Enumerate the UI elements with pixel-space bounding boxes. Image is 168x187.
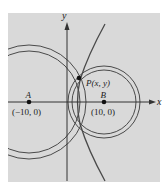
point-a-coords: (−10, 0) <box>12 107 41 117</box>
point-p-label: P(x, y) <box>85 78 110 88</box>
y-axis-label: y <box>61 10 67 21</box>
point-b-label: B <box>101 90 107 100</box>
point-b-dot <box>102 100 107 105</box>
diagram-figure: y x A (−10, 0) B (10, 0) P(x, y) <box>0 0 168 187</box>
point-a-dot <box>27 100 32 105</box>
x-axis-label: x <box>156 96 162 107</box>
point-p-dot <box>77 76 82 81</box>
point-a-label: A <box>25 90 32 100</box>
point-b-coords: (10, 0) <box>91 107 115 117</box>
